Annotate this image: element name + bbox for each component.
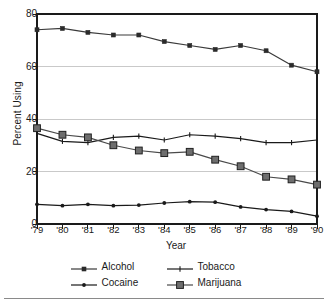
legend-entry-tobacco[interactable]: Tobacco (166, 259, 262, 275)
legend-row: Cocaine Marijuana (0, 275, 331, 291)
data-point-marker (239, 44, 243, 48)
chart-legend: Alcohol Tobacco Cocaine Marijuana (0, 258, 331, 294)
data-point-marker (315, 70, 319, 74)
data-point-marker (213, 200, 217, 204)
data-point-marker (213, 47, 217, 51)
x-axis-title: Year (42, 240, 310, 251)
data-point-marker (86, 30, 90, 34)
y-axis-title: Percent Using (12, 59, 23, 169)
y-tick-label: 80 (11, 9, 37, 19)
series-line (37, 28, 317, 71)
legend-entry-cocaine[interactable]: Cocaine (70, 275, 166, 291)
data-point-marker (111, 33, 115, 37)
data-point-marker (264, 49, 268, 53)
line-chart-svg (0, 0, 331, 258)
legend-label-marijuana: Marijuana (194, 277, 242, 289)
data-point-marker (135, 147, 142, 154)
data-point-marker (186, 148, 193, 155)
legend-label-cocaine: Cocaine (98, 277, 139, 289)
legend-entry-alcohol[interactable]: Alcohol (70, 259, 166, 275)
data-point-marker (111, 204, 115, 208)
legend-entry-marijuana[interactable]: Marijuana (166, 275, 262, 291)
data-point-marker (137, 33, 141, 37)
data-point-marker (162, 201, 166, 205)
data-point-marker (61, 204, 65, 208)
series-tobacco (37, 131, 317, 145)
data-point-marker (86, 202, 90, 206)
series-line (37, 128, 317, 184)
legend-label-alcohol: Alcohol (98, 261, 135, 273)
data-point-marker (288, 176, 295, 183)
data-point-marker (263, 173, 270, 180)
x-tick-label: '90 (302, 224, 331, 235)
data-point-marker (212, 156, 219, 163)
data-point-marker (110, 142, 117, 149)
series-line (37, 202, 317, 216)
legend-marker-marijuana-icon (166, 277, 194, 289)
data-point-marker (290, 63, 294, 67)
data-point-marker (188, 200, 192, 204)
data-point-marker (59, 131, 66, 138)
data-point-marker (314, 181, 321, 188)
data-point-marker (60, 26, 64, 30)
data-point-marker (239, 205, 243, 209)
series-line (37, 133, 317, 142)
bottom-divider (4, 298, 324, 299)
data-point-marker (162, 40, 166, 44)
legend-marker-tobacco-icon (166, 261, 194, 273)
legend-label-tobacco: Tobacco (194, 261, 235, 273)
data-point-marker (137, 203, 141, 207)
data-point-marker (85, 134, 92, 141)
legend-marker-cocaine-icon (70, 277, 98, 289)
data-point-marker (315, 214, 319, 218)
data-point-marker (237, 163, 244, 170)
legend-row: Alcohol Tobacco (0, 259, 331, 275)
data-point-marker (290, 210, 294, 214)
series-marijuana (34, 125, 321, 188)
figure: 020406080 '79'80'81'82'83'84'85'86'87'88… (0, 0, 331, 308)
legend-marker-alcohol-icon (70, 261, 98, 273)
series-cocaine (35, 200, 319, 218)
data-point-marker (264, 208, 268, 212)
chart-plot-area: 020406080 '79'80'81'82'83'84'85'86'87'88… (0, 0, 331, 258)
data-point-marker (161, 150, 168, 157)
data-point-marker (188, 44, 192, 48)
